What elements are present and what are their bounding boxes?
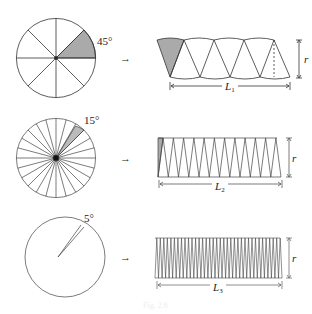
length-label-L2: L2	[214, 180, 225, 194]
arrow-icon: →	[120, 52, 131, 64]
arrow-icon: →	[120, 152, 131, 164]
angle-label-45: 45°	[97, 35, 112, 47]
height-label-r1: r	[304, 53, 309, 65]
angle-label-5: 5°	[84, 212, 94, 224]
circle-24-sectors	[16, 118, 95, 197]
arrow-icon: →	[120, 251, 131, 263]
row-3: 5° → r L3	[25, 212, 297, 297]
circle-72-sectors	[25, 217, 105, 297]
rearranged-strip-2	[158, 138, 292, 188]
circle-8-sectors	[16, 18, 95, 97]
angle-label-15: 15°	[84, 114, 99, 126]
length-label-L3: L3	[212, 281, 223, 295]
row-2: 15° → r L2	[16, 114, 297, 198]
circle-area-diagram: 45° → r L1	[0, 0, 312, 314]
height-label-r2: r	[292, 152, 297, 164]
height-label-r3: r	[292, 252, 297, 264]
figure-caption: Fig. 2.6	[143, 301, 168, 310]
length-label-L1: L1	[224, 80, 235, 94]
row-1: 45° → r L1	[16, 18, 309, 97]
rearranged-strip-3	[155, 238, 292, 289]
